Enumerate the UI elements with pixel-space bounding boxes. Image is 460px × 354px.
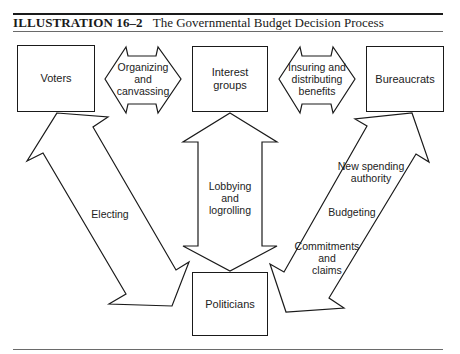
electing-label: Electing — [88, 208, 132, 220]
organizing-label: Organizing and canvassing — [113, 61, 173, 97]
lobbying-label: Lobbying and logrolling — [200, 180, 260, 216]
node-voters: Voters — [17, 45, 95, 112]
figure-bottom-rule — [13, 349, 443, 350]
politicians-label: Politicians — [205, 298, 255, 311]
commitments-label: Commitments and claims — [290, 240, 364, 276]
interest-groups-label-line2: groups — [213, 79, 247, 92]
voters-label: Voters — [40, 72, 71, 85]
budgeting-label: Budgeting — [324, 206, 380, 218]
bureaucrats-label: Bureaucrats — [375, 73, 434, 86]
node-bureaucrats: Bureaucrats — [366, 46, 444, 112]
insuring-label: Insuring and distributing benefits — [283, 61, 351, 97]
interest-groups-label-line1: Interest — [212, 66, 249, 79]
new-spending-label: New spending authority — [336, 160, 406, 184]
node-politicians: Politicians — [192, 272, 268, 336]
node-interest-groups: Interest groups — [192, 46, 268, 112]
